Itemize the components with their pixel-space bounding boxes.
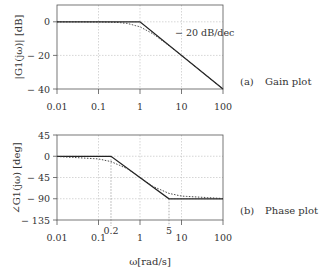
y-tick-label: − 45 xyxy=(27,172,50,183)
phase-ylabel: ∠G1(jω) [deg] xyxy=(11,142,22,214)
phase-caption-letter: (b) xyxy=(240,205,254,216)
gain-caption-letter: (a) xyxy=(240,76,254,87)
x-tick-label: 5 xyxy=(166,225,172,236)
y-tick-label: 0 xyxy=(44,16,50,27)
phase-caption-text: Phase plot xyxy=(265,205,318,216)
y-tick-label: − 135 xyxy=(21,215,50,226)
gain-grid xyxy=(57,5,223,89)
bode-figure: 0.010.11101000− 20− 40 |G1(jω)| [dB] − 2… xyxy=(0,0,322,271)
x-tick-label: 0.2 xyxy=(103,225,118,236)
y-tick-label: − 40 xyxy=(27,84,50,95)
x-tick-label: 100 xyxy=(214,101,232,112)
gain-caption-text: Gain plot xyxy=(265,76,311,87)
y-tick-label: − 20 xyxy=(27,50,50,61)
phase-grid xyxy=(57,135,223,226)
gain-ylabel: |G1(jω)| [dB] xyxy=(13,14,25,79)
x-tick-label: 0.1 xyxy=(91,101,106,112)
x-tick-label: 100 xyxy=(214,232,232,243)
x-tick-label: 1 xyxy=(137,101,143,112)
x-tick-label: 1 xyxy=(137,232,143,243)
x-tick-label: 0.01 xyxy=(46,232,67,243)
phase-tick-labels: 0.010.10.21510100450− 45− 90− 135 xyxy=(21,130,232,244)
x-tick-label: 0.01 xyxy=(46,101,67,112)
gain-annotation: − 20 dB/dec xyxy=(175,27,234,38)
gain-plot: 0.010.11101000− 20− 40 |G1(jω)| [dB] − 2… xyxy=(13,5,311,112)
x-tick-label: 10 xyxy=(175,232,187,243)
y-tick-label: 0 xyxy=(44,151,50,162)
y-tick-label: − 90 xyxy=(27,193,50,204)
phase-plot: 0.010.10.21510100450− 45− 90− 135 ∠G1(jω… xyxy=(11,130,318,268)
phase-xlabel: ω[rad/s] xyxy=(129,256,171,267)
x-tick-label: 10 xyxy=(175,101,187,112)
y-tick-label: 45 xyxy=(38,130,50,141)
